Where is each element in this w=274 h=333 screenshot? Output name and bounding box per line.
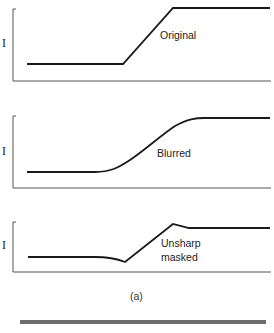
panel-unsharp <box>13 222 271 272</box>
figure-caption: (a) <box>130 290 143 302</box>
edge-profiles-diagram <box>0 0 274 333</box>
panel-blurred <box>13 116 271 188</box>
panel-original <box>13 8 271 81</box>
label-unsharp-line1: Unsharp <box>161 237 201 249</box>
curve-blurred <box>27 118 270 172</box>
curve-original <box>27 8 270 64</box>
label-original: Original <box>160 29 196 41</box>
y-axis-label-blurred: I <box>2 144 6 159</box>
axis-unsharp <box>13 222 271 272</box>
label-unsharp-line2: masked <box>161 251 198 263</box>
separator-bar <box>20 320 266 324</box>
label-blurred: Blurred <box>157 147 191 159</box>
y-axis-label-unsharp: I <box>2 238 6 253</box>
axis-original <box>13 9 271 81</box>
curve-unsharp <box>28 224 270 262</box>
y-axis-label-original: I <box>2 36 6 51</box>
